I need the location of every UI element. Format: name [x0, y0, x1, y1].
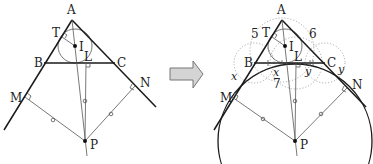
label-n-right: N — [352, 78, 363, 92]
label-c-right: C — [327, 56, 336, 70]
label-l: L — [84, 50, 92, 64]
point-i — [73, 44, 77, 48]
label-bc-7: 7 — [273, 77, 281, 91]
segment-it-right — [272, 37, 285, 46]
point-p — [83, 139, 87, 143]
point-i-right — [283, 44, 287, 48]
label-b-right: B — [244, 56, 253, 70]
segment-np — [85, 86, 135, 141]
geometry-figure: A B C T I L M N P — [0, 0, 373, 164]
equal-mark-lp-right — [293, 99, 297, 103]
equal-mark-lp — [83, 99, 87, 103]
equal-mark-mp — [51, 118, 55, 122]
segment-np-right — [295, 88, 347, 141]
right-angle-mark-n-right — [342, 86, 346, 92]
label-c: C — [117, 56, 126, 70]
label-p: P — [90, 138, 98, 152]
line-ab-extended-right — [214, 20, 282, 130]
label-lc-y: y — [304, 65, 312, 78]
segment-lp-right — [295, 63, 296, 141]
label-m: M — [10, 91, 22, 105]
right-angle-mark-t — [64, 33, 67, 38]
label-b: B — [34, 56, 43, 70]
label-ab-length: 5 — [251, 27, 259, 41]
label-cn-y: y — [337, 63, 345, 76]
segment-lp — [85, 63, 86, 141]
label-ac-length: 6 — [309, 27, 317, 41]
left-diagram: A B C T I L M N P — [4, 3, 156, 156]
segment-mp — [25, 97, 85, 141]
label-bm-x: x — [231, 70, 238, 83]
label-m-right: M — [220, 91, 232, 105]
label-a: A — [66, 3, 76, 17]
right-angle-mark-n — [130, 84, 134, 90]
right-angle-mark-t-right — [274, 33, 277, 38]
segment-it — [62, 37, 75, 46]
transition-arrow — [170, 61, 203, 88]
line-ab-extended — [4, 20, 72, 130]
right-diagram: A B C T I L M N P 5 6 x y x 7 y — [214, 3, 372, 164]
label-a-right: A — [276, 3, 286, 17]
arrow-right-icon — [170, 61, 203, 88]
label-n: N — [140, 76, 151, 90]
segment-mp-right — [232, 97, 295, 141]
label-l-right: L — [294, 50, 302, 64]
point-p-right — [293, 139, 297, 143]
label-p-right: P — [300, 138, 308, 152]
label-t-right: T — [262, 26, 270, 40]
label-t: T — [52, 26, 60, 40]
